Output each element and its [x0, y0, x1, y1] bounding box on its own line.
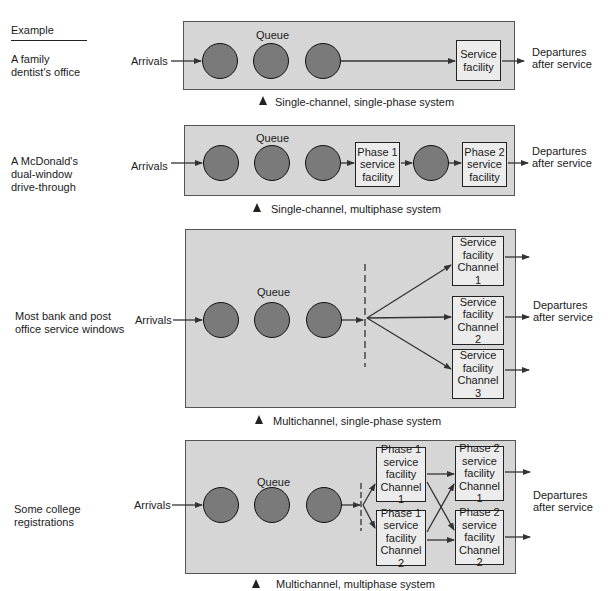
flow-arrows	[0, 0, 608, 591]
